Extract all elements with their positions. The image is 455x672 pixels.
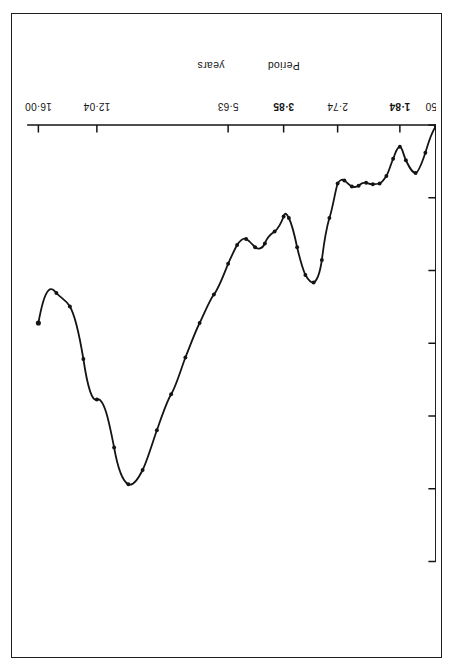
x-axis-tick-labels: 1·50 1·84 2·74 3·85 5·63 12·04 16·00 [25, 101, 436, 112]
x-tick-label-3: 3·85 [273, 101, 294, 112]
data-point [235, 243, 239, 247]
x-axis-title: Period years [197, 60, 299, 72]
data-point [414, 171, 418, 175]
x-tick-label-6: 16·00 [25, 101, 52, 112]
x-tick-label-5: 12·04 [83, 101, 110, 112]
rotated-figure-container: 1·50 1·84 2·74 3·85 5·63 12·04 16·00 Per… [18, 20, 436, 650]
data-point [303, 273, 307, 277]
figure-page: 1·50 1·84 2·74 3·85 5·63 12·04 16·00 Per… [0, 0, 455, 672]
data-point [371, 182, 375, 186]
data-point [54, 291, 58, 295]
data-point [423, 151, 427, 155]
data-point-endpoint [36, 320, 41, 325]
x-axis-title-period: Period [268, 60, 300, 72]
variance-spectrum-chart: 1·50 1·84 2·74 3·85 5·63 12·04 16·00 Per… [18, 20, 436, 650]
data-point [364, 181, 368, 185]
data-point [398, 145, 402, 149]
data-point [95, 398, 99, 402]
data-point-markers [36, 125, 436, 487]
data-point [263, 242, 267, 246]
data-point [169, 392, 173, 396]
data-point [295, 245, 299, 249]
data-point [253, 245, 257, 249]
x-axis-ticks [38, 125, 436, 133]
x-tick-label-4: 5·63 [217, 101, 238, 112]
data-point [357, 184, 361, 188]
x-axis-title-years: years [197, 60, 224, 72]
data-point [336, 182, 340, 186]
data-point [391, 157, 395, 161]
x-tick-label-2: 2·74 [327, 101, 348, 112]
data-point [81, 357, 85, 361]
data-point [273, 230, 277, 234]
data-point [112, 446, 116, 450]
data-point [198, 321, 202, 325]
y-axis-ticks [428, 125, 436, 562]
data-point [384, 174, 388, 178]
data-point [320, 258, 324, 262]
data-point [342, 179, 346, 183]
data-point [68, 305, 72, 309]
x-tick-label-0: 1·50 [425, 101, 436, 112]
data-point [327, 216, 331, 220]
x-tick-label-1: 1·84 [389, 101, 410, 112]
data-point [155, 428, 159, 432]
data-point [126, 482, 130, 486]
data-point [183, 356, 187, 360]
data-point [282, 215, 286, 219]
data-point [141, 468, 145, 472]
data-point [226, 262, 230, 266]
data-point [287, 216, 291, 220]
data-point [404, 158, 408, 162]
data-point [244, 237, 248, 241]
data-point [350, 185, 354, 189]
variance-curve [38, 127, 436, 485]
data-point [312, 281, 316, 285]
data-point [378, 182, 382, 186]
data-point [212, 293, 216, 297]
